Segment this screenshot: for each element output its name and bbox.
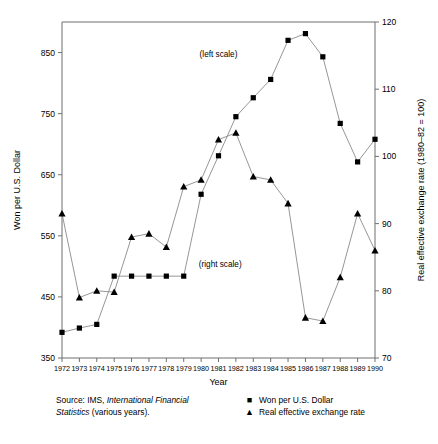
x-axis-tick-label: 1984 xyxy=(263,364,279,373)
x-axis-tick-label: 1972 xyxy=(54,364,70,373)
source-line1-italic: International Financial xyxy=(107,395,189,405)
x-axis-tick-label: 1986 xyxy=(297,364,313,373)
scale-annotation: (right scale) xyxy=(199,260,242,269)
triangle-data-point xyxy=(163,244,170,251)
triangle-data-point xyxy=(215,136,222,143)
square-data-point xyxy=(355,159,360,164)
square-data-point xyxy=(164,274,169,279)
square-data-point xyxy=(94,322,99,327)
x-axis-tick-label: 1980 xyxy=(193,364,209,373)
source-line2-italic: Statistics xyxy=(56,407,90,417)
series-line-right xyxy=(62,133,375,321)
left-axis: 350450550650750850 xyxy=(41,48,62,363)
x-axis-tick-label: 1989 xyxy=(350,364,366,373)
right-axis-tick-label: 90 xyxy=(382,219,392,229)
right-axis-tick-label: 70 xyxy=(382,353,392,363)
square-data-point xyxy=(59,330,64,335)
x-axis-tick-label: 1983 xyxy=(245,364,261,373)
x-axis-tick-label: 1974 xyxy=(89,364,105,373)
triangle-data-point xyxy=(302,314,309,321)
triangle-data-point xyxy=(354,210,361,217)
triangle-data-point xyxy=(250,173,257,180)
triangle-data-point xyxy=(337,274,344,281)
data-series xyxy=(58,31,378,335)
triangle-data-point xyxy=(232,129,239,136)
x-axis-tick-label: 1988 xyxy=(332,364,348,373)
triangle-data-point xyxy=(58,210,65,217)
triangle-data-point xyxy=(180,183,187,190)
x-axis-tick-label: 1982 xyxy=(228,364,244,373)
triangle-data-point xyxy=(93,287,100,294)
x-axis-tick-label: 1977 xyxy=(141,364,157,373)
square-data-point xyxy=(146,274,151,279)
chart-figure: 350450550650750850 708090100110120 19721… xyxy=(0,0,438,444)
x-axis-title: Year xyxy=(209,377,227,387)
y2-axis-title: Real effective exchange rate (1980–82 = … xyxy=(416,99,426,282)
square-data-point xyxy=(216,153,221,158)
series-line-left xyxy=(62,34,375,333)
right-axis-tick-label: 80 xyxy=(382,286,392,296)
square-data-point xyxy=(303,31,308,36)
source-line1-prefix: Source: IMS, xyxy=(56,395,107,405)
x-axis-tick-label: 1976 xyxy=(124,364,140,373)
right-axis-tick-label: 120 xyxy=(382,17,396,27)
square-data-point xyxy=(338,121,343,126)
source-line2-suffix: (various years). xyxy=(90,407,150,417)
square-data-point xyxy=(129,274,134,279)
left-axis-tick-label: 450 xyxy=(41,292,55,302)
square-marker-icon: ■ xyxy=(245,396,254,405)
square-data-point xyxy=(233,114,238,119)
x-axis-tick-label: 1981 xyxy=(211,364,227,373)
square-data-point xyxy=(251,95,256,100)
right-axis-tick-label: 110 xyxy=(382,84,396,94)
triangle-data-point xyxy=(371,247,378,254)
x-axis-tick-label: 1985 xyxy=(280,364,296,373)
triangle-data-point xyxy=(76,294,83,301)
left-axis-tick-label: 550 xyxy=(41,231,55,241)
scale-annotations: (left scale)(right scale) xyxy=(199,50,242,269)
right-axis-tick-label: 100 xyxy=(382,151,396,161)
triangle-data-point xyxy=(284,200,291,207)
square-data-point xyxy=(77,325,82,330)
triangle-data-point xyxy=(145,230,152,237)
left-axis-tick-label: 750 xyxy=(41,109,55,119)
scale-annotation: (left scale) xyxy=(200,50,238,59)
legend-item: ■ Won per U.S. Dollar xyxy=(245,394,435,406)
legend-item-label: Real effective exchange rate xyxy=(259,406,365,418)
square-data-point xyxy=(112,274,117,279)
x-axis-tick-label: 1978 xyxy=(158,364,174,373)
right-axis: 708090100110120 xyxy=(375,17,396,363)
triangle-data-point xyxy=(198,176,205,183)
x-axis: 1972197319741975197619771978197919801981… xyxy=(54,358,383,373)
square-data-point xyxy=(285,38,290,43)
legend: ■ Won per U.S. Dollar ▲ Real effective e… xyxy=(245,394,435,418)
square-data-point xyxy=(268,77,273,82)
x-axis-tick-label: 1990 xyxy=(367,364,383,373)
square-data-point xyxy=(181,274,186,279)
x-axis-tick-label: 1973 xyxy=(71,364,87,373)
legend-item-label: Won per U.S. Dollar xyxy=(259,394,333,406)
chart-svg: 350450550650750850 708090100110120 19721… xyxy=(0,0,438,444)
triangle-marker-icon: ▲ xyxy=(245,408,254,417)
x-axis-tick-label: 1987 xyxy=(315,364,331,373)
square-data-point xyxy=(199,192,204,197)
x-axis-tick-label: 1979 xyxy=(176,364,192,373)
left-axis-tick-label: 650 xyxy=(41,170,55,180)
legend-item: ▲ Real effective exchange rate xyxy=(245,406,435,418)
y-axis-title: Won per U.S. Dollar xyxy=(12,150,22,230)
square-data-point xyxy=(320,54,325,59)
source-note: Source: IMS, International Financial Sta… xyxy=(56,394,256,418)
x-axis-tick-label: 1975 xyxy=(106,364,122,373)
square-data-point xyxy=(372,137,377,142)
left-axis-tick-label: 350 xyxy=(41,353,55,363)
left-axis-tick-label: 850 xyxy=(41,48,55,58)
